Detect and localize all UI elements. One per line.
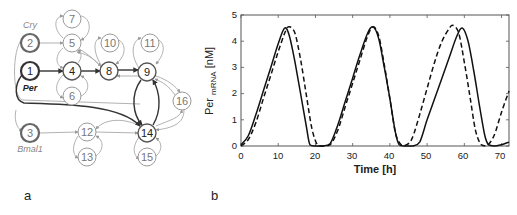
x-tick-60: 60 [458, 150, 469, 161]
node-9: 9 [138, 63, 156, 81]
gene-label-per: Per [23, 83, 38, 93]
node-11: 11 [141, 34, 159, 52]
node-16: 16 [173, 92, 191, 110]
svg-text:10: 10 [104, 37, 116, 49]
node-3: 3 [21, 124, 39, 142]
edges-dark [16, 70, 159, 126]
edges-thin [15, 16, 185, 159]
gene-label-bmal1: Bmal1 [17, 144, 43, 154]
x-tick-70: 70 [495, 150, 506, 161]
y-tick-4: 4 [232, 35, 237, 46]
x-tick-40: 40 [384, 150, 395, 161]
gene-label-cry: Cry [23, 20, 37, 30]
y-label-main: Per [203, 98, 215, 115]
y-axis-label: Per mRNA [nM] [203, 47, 218, 115]
panel-label-b: b [211, 188, 218, 203]
node-4: 4 [63, 62, 81, 80]
svg-text:5: 5 [69, 37, 75, 49]
node-7: 7 [63, 10, 81, 28]
svg-text:16: 16 [176, 95, 188, 107]
chart: 5 4 3 2 1 0 0 10 20 30 40 50 60 70 Time … [203, 9, 509, 175]
x-tick-0: 0 [238, 150, 243, 161]
svg-text:8: 8 [106, 65, 112, 77]
y-label-sub: mRNA [209, 71, 218, 95]
node-12: 12 [78, 123, 96, 141]
svg-text:7: 7 [69, 13, 75, 25]
y-tick-0: 0 [232, 140, 237, 151]
panel-label-a: a [24, 188, 32, 203]
y-tick-5: 5 [232, 9, 237, 20]
x-tick-30: 30 [347, 150, 358, 161]
node-13: 13 [78, 148, 96, 166]
svg-text:9: 9 [144, 66, 150, 78]
node-15: 15 [138, 148, 156, 166]
x-tick-50: 50 [421, 150, 432, 161]
svg-text:2: 2 [27, 37, 33, 49]
node-2: 2 [21, 34, 39, 52]
y-label-unit: [nM] [203, 47, 215, 68]
y-tick-3: 3 [232, 61, 237, 72]
node-10: 10 [101, 34, 119, 52]
svg-text:Per mRNA [nM]: Per mRNA [nM] [203, 47, 218, 115]
svg-text:1: 1 [27, 65, 33, 77]
x-tick-10: 10 [273, 150, 284, 161]
node-6: 6 [63, 87, 81, 105]
node-1: 1 [21, 62, 39, 80]
series-group [241, 25, 509, 146]
x-tick-20: 20 [310, 150, 321, 161]
node-5: 5 [63, 34, 81, 52]
svg-text:11: 11 [144, 37, 155, 49]
x-axis-label: Time [h] [354, 163, 397, 175]
node-14: 14 [138, 124, 156, 142]
y-tick-1: 1 [232, 114, 237, 125]
svg-text:12: 12 [81, 126, 93, 138]
y-tick-2: 2 [232, 87, 237, 98]
svg-text:4: 4 [69, 65, 75, 77]
figure: 7 5 6 10 11 16 12 13 15 4 8 9 14 2 1 3 C… [0, 0, 517, 215]
network-diagram: 7 5 6 10 11 16 12 13 15 4 8 9 14 2 1 3 C… [15, 10, 192, 166]
node-8: 8 [100, 62, 118, 80]
svg-text:15: 15 [141, 151, 153, 163]
svg-text:13: 13 [81, 151, 93, 163]
svg-text:14: 14 [141, 127, 153, 139]
svg-text:3: 3 [27, 127, 33, 139]
svg-text:6: 6 [69, 90, 75, 102]
